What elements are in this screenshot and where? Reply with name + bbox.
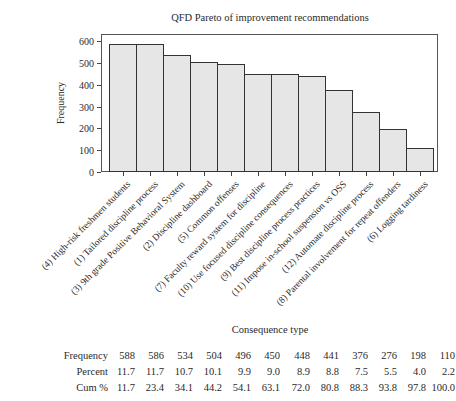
table-row-label: Frequency bbox=[48, 350, 108, 361]
table-cell: 448 bbox=[280, 350, 310, 361]
y-tick bbox=[97, 107, 101, 108]
table-cell: 34.1 bbox=[163, 382, 193, 393]
bar bbox=[271, 74, 299, 172]
bar bbox=[136, 44, 164, 172]
x-axis-title: Consequence type bbox=[100, 324, 440, 335]
y-tick-label: 200 bbox=[79, 123, 94, 134]
table-cell: 5.5 bbox=[367, 366, 397, 377]
x-tick bbox=[231, 172, 232, 176]
table-cell: 11.7 bbox=[105, 382, 135, 393]
table-cell: 10.1 bbox=[192, 366, 222, 377]
bar bbox=[163, 55, 191, 172]
x-tick bbox=[150, 172, 151, 176]
table-cell: 72.0 bbox=[280, 382, 310, 393]
table-cell: 80.8 bbox=[309, 382, 339, 393]
y-axis-label: Frequency bbox=[55, 82, 66, 124]
table-cell: 8.8 bbox=[309, 366, 339, 377]
table-cell: 9.0 bbox=[250, 366, 280, 377]
table-cell: 110 bbox=[425, 350, 455, 361]
table-cell: 496 bbox=[221, 350, 251, 361]
y-tick bbox=[97, 128, 101, 129]
y-tick-label: 0 bbox=[89, 167, 94, 178]
y-tick-label: 500 bbox=[79, 57, 94, 68]
x-tick bbox=[177, 172, 178, 176]
table-cell: 63.1 bbox=[250, 382, 280, 393]
table-cell: 441 bbox=[309, 350, 339, 361]
x-tick bbox=[285, 172, 286, 176]
y-tick-label: 300 bbox=[79, 101, 94, 112]
table-cell: 10.7 bbox=[163, 366, 193, 377]
table-cell: 93.8 bbox=[367, 382, 397, 393]
table-cell: 7.5 bbox=[338, 366, 368, 377]
y-tick-label: 100 bbox=[79, 145, 94, 156]
x-tick bbox=[420, 172, 421, 176]
bar bbox=[325, 90, 353, 172]
table-cell: 2.2 bbox=[425, 366, 455, 377]
table-cell: 23.4 bbox=[134, 382, 164, 393]
table-cell: 504 bbox=[192, 350, 222, 361]
bar bbox=[352, 112, 380, 172]
bar bbox=[406, 148, 434, 172]
table-cell: 534 bbox=[163, 350, 193, 361]
y-tick bbox=[97, 85, 101, 86]
table-cell: 9.9 bbox=[221, 366, 251, 377]
table-cell: 450 bbox=[250, 350, 280, 361]
y-tick bbox=[97, 63, 101, 64]
table-cell: 11.7 bbox=[134, 366, 164, 377]
bar bbox=[109, 44, 137, 172]
x-tick bbox=[204, 172, 205, 176]
table-cell: 586 bbox=[134, 350, 164, 361]
x-tick bbox=[366, 172, 367, 176]
table-cell: 198 bbox=[396, 350, 426, 361]
bar bbox=[217, 64, 245, 172]
bar bbox=[298, 76, 326, 172]
bar bbox=[379, 129, 407, 172]
table-row-label: Percent bbox=[48, 366, 108, 377]
x-tick bbox=[393, 172, 394, 176]
table-cell: 44.2 bbox=[192, 382, 222, 393]
table-row-label: Cum % bbox=[48, 382, 108, 393]
bar bbox=[190, 62, 218, 172]
x-tick bbox=[339, 172, 340, 176]
y-tick-label: 600 bbox=[79, 36, 94, 47]
x-tick bbox=[258, 172, 259, 176]
y-tick-label: 400 bbox=[79, 79, 94, 90]
table-cell: 100.0 bbox=[425, 382, 455, 393]
table-cell: 276 bbox=[367, 350, 397, 361]
table-cell: 8.9 bbox=[280, 366, 310, 377]
table-cell: 54.1 bbox=[221, 382, 251, 393]
bar bbox=[244, 74, 272, 172]
table-cell: 4.0 bbox=[396, 366, 426, 377]
table-cell: 88.3 bbox=[338, 382, 368, 393]
y-tick bbox=[97, 41, 101, 42]
y-tick bbox=[97, 150, 101, 151]
chart-title: QFD Pareto of improvement recommendation… bbox=[100, 12, 440, 23]
table-cell: 588 bbox=[105, 350, 135, 361]
y-tick bbox=[97, 172, 101, 173]
x-tick bbox=[312, 172, 313, 176]
x-tick bbox=[123, 172, 124, 176]
table-cell: 376 bbox=[338, 350, 368, 361]
table-cell: 97.8 bbox=[396, 382, 426, 393]
table-cell: 11.7 bbox=[105, 366, 135, 377]
